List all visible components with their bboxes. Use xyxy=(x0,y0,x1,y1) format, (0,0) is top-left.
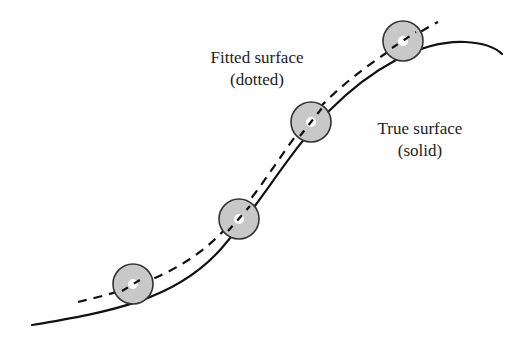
true-surface-label: True surface (solid) xyxy=(360,118,480,162)
fitted-surface-label-line1: Fitted surface xyxy=(197,47,317,69)
fitted-surface-label-line2: (dotted) xyxy=(197,69,317,91)
surface-fit-diagram: Fitted surface (dotted) True surface (so… xyxy=(0,0,520,341)
true-surface-label-line2: (solid) xyxy=(360,140,480,162)
true-surface-label-line1: True surface xyxy=(360,118,480,140)
ball-4 xyxy=(383,21,423,61)
fitted-surface-label: Fitted surface (dotted) xyxy=(197,47,317,91)
ball-1 xyxy=(113,264,153,304)
